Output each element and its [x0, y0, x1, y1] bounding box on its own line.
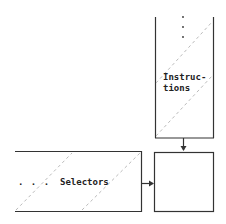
output-box [155, 153, 214, 212]
selectors-ellipsis: . . . [18, 177, 50, 188]
instructions-label: Instruc- tions [163, 72, 206, 94]
instructions-label-line2: tions [163, 83, 206, 94]
arrow-down-icon [181, 138, 187, 151]
arrow-right-icon [142, 181, 154, 187]
selectors-label: Selectors [60, 177, 109, 188]
instructions-label-line1: Instruc- [163, 72, 206, 83]
diagram-canvas [0, 0, 226, 224]
